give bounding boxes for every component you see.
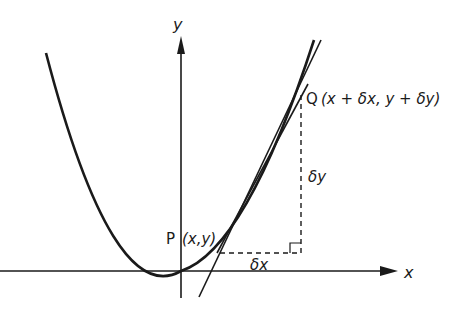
chord-pq bbox=[217, 84, 308, 253]
point-p-label: P bbox=[166, 230, 175, 248]
delta-y-label: δy bbox=[308, 168, 327, 186]
delta-x-label: δx bbox=[250, 256, 268, 274]
y-axis-arrow-icon bbox=[177, 36, 185, 54]
point-p-coords: (x,y) bbox=[182, 230, 216, 248]
right-angle-marker bbox=[290, 243, 301, 253]
point-q-coords: (x + δx, y + δy) bbox=[321, 90, 440, 108]
x-axis-arrow-icon bbox=[380, 266, 398, 276]
x-axis-label: x bbox=[403, 263, 414, 282]
y-axis-label: y bbox=[172, 15, 183, 34]
parabola-curve bbox=[46, 40, 314, 276]
point-q-label: Q bbox=[306, 90, 318, 108]
calculus-diagram: y x P (x,y) Q (x + δx, y + δy) δy δx bbox=[0, 0, 462, 317]
